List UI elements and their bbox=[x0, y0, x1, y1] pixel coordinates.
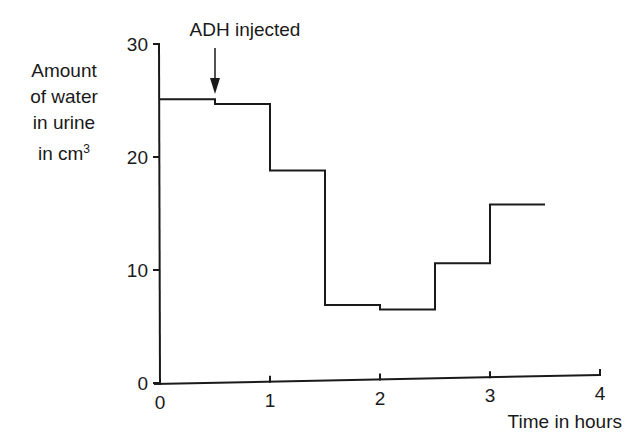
x-axis-label: Time in hours bbox=[508, 411, 622, 432]
y-tick-label: 0 bbox=[137, 373, 148, 394]
x-tick-label: 3 bbox=[485, 385, 496, 406]
x-tick-label: 2 bbox=[375, 388, 386, 409]
step-chart: 010203001234Time in hours ADH injected bbox=[0, 0, 634, 445]
y-tick-label: 20 bbox=[127, 147, 148, 168]
y-tick-label: 30 bbox=[127, 34, 148, 55]
x-tick-label: 4 bbox=[595, 383, 606, 404]
y-axis-line bbox=[159, 44, 160, 385]
annotation: ADH injected bbox=[190, 19, 301, 94]
x-axis-line bbox=[154, 375, 600, 384]
plot-area bbox=[160, 99, 545, 309]
step-line bbox=[160, 99, 545, 309]
axes: 010203001234Time in hours bbox=[127, 34, 622, 432]
arrow-down-icon bbox=[210, 78, 220, 94]
x-tick-label: 0 bbox=[155, 392, 166, 413]
x-tick-label: 1 bbox=[265, 390, 276, 411]
y-tick-label: 10 bbox=[127, 260, 148, 281]
annotation-label: ADH injected bbox=[190, 19, 301, 40]
